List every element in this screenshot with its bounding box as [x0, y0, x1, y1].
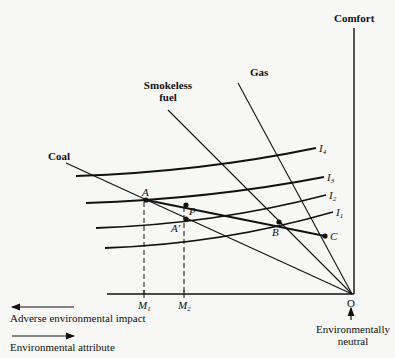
smokeless-fuel-ray	[168, 110, 352, 294]
point-a-prime-label: A′	[171, 222, 180, 234]
coal-ray	[66, 163, 352, 294]
environmental-attribute-label: Environmental attribute	[10, 341, 115, 353]
coal-label: Coal	[48, 150, 70, 162]
i4-label: I4	[319, 142, 326, 157]
i2-label: I2	[329, 189, 336, 204]
point-a-prime	[183, 216, 188, 221]
point-a-label: A	[142, 186, 149, 198]
diagram-canvas	[0, 0, 395, 358]
smokeless-fuel-label: Smokeless fuel	[138, 79, 198, 103]
point-a	[143, 197, 148, 202]
adverse-impact-label: Adverse environmental impact	[10, 312, 146, 324]
comfort-label: Comfort	[334, 12, 374, 24]
indifference-curve-i4	[76, 148, 316, 176]
point-b-label: B	[272, 226, 279, 238]
point-p-label: P	[189, 205, 196, 217]
gas-label: Gas	[250, 66, 268, 78]
point-p	[183, 202, 188, 207]
origin-label: O	[347, 297, 355, 309]
point-c	[322, 233, 327, 238]
point-c-label: C	[330, 230, 337, 242]
i1-label: I1	[336, 206, 343, 221]
i3-label: I3	[327, 171, 334, 186]
m2-label: M2	[178, 299, 191, 314]
indifference-curve-i3	[86, 177, 324, 203]
point-b	[276, 219, 281, 224]
environmentally-neutral-label: Environmentally neutral	[308, 323, 395, 347]
